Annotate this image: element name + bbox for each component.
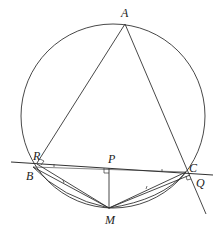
label-B: B xyxy=(26,170,33,182)
segment-CM xyxy=(109,172,186,208)
label-R: R xyxy=(33,150,40,162)
label-A: A xyxy=(121,7,128,19)
segment-BM xyxy=(33,167,109,208)
line-AR xyxy=(37,24,125,163)
line-AC-extended xyxy=(125,24,206,214)
geometry-diagram: A R B P C Q M xyxy=(0,0,223,234)
label-M: M xyxy=(105,214,115,226)
segment-RM xyxy=(37,164,109,208)
label-C: C xyxy=(189,162,197,174)
diagram-figure xyxy=(0,0,223,234)
tick-mark xyxy=(146,186,147,189)
label-P: P xyxy=(108,153,115,165)
label-Q: Q xyxy=(196,177,205,189)
